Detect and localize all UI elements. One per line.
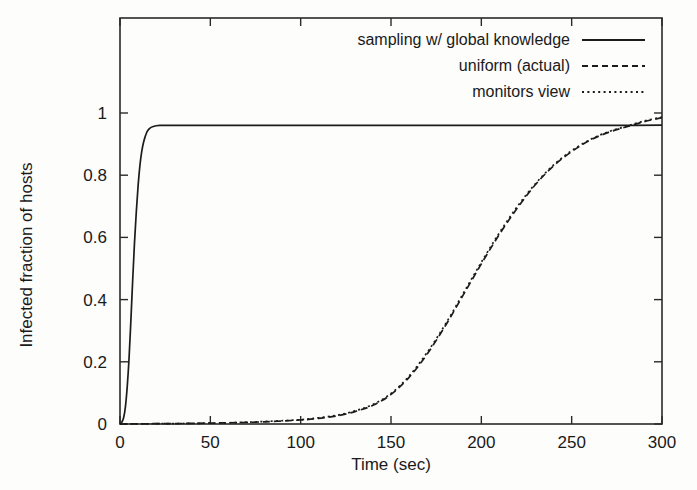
y-tick-label-1: 0.2 [83,353,107,372]
x-tick-label-3: 150 [377,433,405,452]
chart-figure: 050100150200250300 00.20.40.60.81 Time (… [0,0,697,490]
y-tick-label-3: 0.6 [83,228,107,247]
x-axis-ticks [120,18,662,424]
x-axis-title: Time (sec) [351,455,431,474]
x-tick-label-6: 300 [648,433,676,452]
series-line-2 [120,117,662,424]
x-tick-label-4: 200 [467,433,495,452]
line-chart: 050100150200250300 00.20.40.60.81 Time (… [0,0,697,490]
x-tick-label-2: 100 [286,433,314,452]
x-tick-label-5: 250 [557,433,585,452]
y-tick-label-2: 0.4 [83,291,107,310]
legend-label-2: monitors view [472,83,570,100]
plot-frame [120,18,662,424]
legend-label-1: uniform (actual) [459,57,570,74]
y-tick-label-0: 0 [98,415,107,434]
series-line-1 [120,118,662,424]
y-axis-tick-labels: 00.20.40.60.81 [83,104,107,434]
y-axis-ticks [120,113,662,424]
x-tick-label-1: 50 [201,433,220,452]
y-tick-label-5: 1 [98,104,107,123]
legend-label-0: sampling w/ global knowledge [357,31,570,48]
data-series-group [120,117,662,424]
series-line-0 [120,125,662,424]
chart-legend: sampling w/ global knowledgeuniform (act… [357,31,645,100]
y-tick-label-4: 0.8 [83,166,107,185]
y-axis-title: Infected fraction of hosts [17,162,36,347]
x-axis-tick-labels: 050100150200250300 [115,433,676,452]
x-tick-label-0: 0 [115,433,124,452]
